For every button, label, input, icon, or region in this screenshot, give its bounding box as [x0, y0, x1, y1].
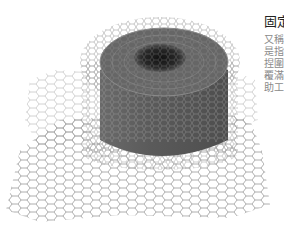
description-line: 捏圍	[264, 58, 284, 70]
description-line: 是指	[264, 46, 284, 58]
description-text-block: 固定 又稱 是指 捏圍 覆滿 助工	[264, 14, 284, 94]
product-title: 固定	[264, 14, 284, 30]
description-line: 覆滿	[264, 70, 284, 82]
description-line: 又稱	[264, 34, 284, 46]
description-lines: 又稱 是指 捏圍 覆滿 助工	[264, 34, 284, 94]
description-line: 助工	[264, 82, 284, 94]
wire-mesh-roll-image	[0, 0, 284, 234]
